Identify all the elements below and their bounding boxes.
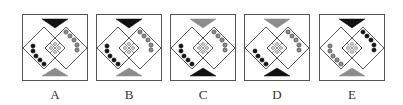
right-dot: [146, 38, 150, 42]
right-dot: [142, 34, 146, 38]
option-e-svg: [319, 14, 385, 81]
left-dot: [42, 62, 46, 66]
left-dot: [339, 62, 343, 66]
option-d-svg: [244, 14, 310, 81]
option-c-svg: [170, 14, 236, 81]
option-b-svg: [96, 14, 162, 81]
right-dot: [75, 48, 79, 52]
left-dot: [328, 44, 332, 48]
right-dot: [290, 34, 294, 38]
right-dot: [212, 30, 216, 34]
left-dot: [179, 49, 183, 53]
center-small-circle: [280, 47, 283, 50]
center-small-circle: [124, 47, 127, 50]
left-dot: [186, 58, 190, 62]
left-dot: [253, 49, 257, 53]
left-dot: [31, 44, 35, 48]
center-small-circle: [351, 43, 354, 46]
option-label-e: E: [319, 87, 385, 103]
left-dot: [105, 44, 109, 48]
option-b-figure[interactable]: [96, 14, 162, 81]
left-dot: [331, 54, 335, 58]
option-a-svg: [22, 14, 88, 81]
left-dot: [256, 54, 260, 58]
right-dot: [286, 30, 290, 34]
center-small-circle: [272, 47, 275, 50]
center-small-circle: [276, 43, 279, 46]
left-dot: [264, 62, 268, 66]
right-dot: [297, 48, 301, 52]
right-dot: [223, 43, 227, 47]
right-dot: [361, 30, 365, 34]
center-small-circle: [351, 51, 354, 54]
center-small-circle: [132, 47, 135, 50]
right-dot: [149, 48, 153, 52]
right-dot: [149, 43, 153, 47]
left-dot: [179, 44, 183, 48]
right-dot: [297, 43, 301, 47]
center-small-circle: [202, 51, 205, 54]
option-e-figure[interactable]: [319, 14, 385, 81]
left-dot: [328, 49, 332, 53]
left-dot: [38, 58, 42, 62]
center-small-circle: [202, 43, 205, 46]
left-dot: [112, 58, 116, 62]
center-small-circle: [128, 51, 131, 54]
option-d-figure[interactable]: [244, 14, 310, 81]
option-a-figure[interactable]: [22, 14, 88, 81]
option-label-b: B: [96, 87, 162, 103]
option-c-figure[interactable]: [170, 14, 236, 81]
center-small-circle: [347, 47, 350, 50]
left-dot: [335, 58, 339, 62]
center-small-circle: [58, 47, 61, 50]
center-small-circle: [355, 47, 358, 50]
right-dot: [68, 34, 72, 38]
center-small-circle: [54, 43, 57, 46]
right-dot: [365, 34, 369, 38]
center-small-circle: [50, 47, 53, 50]
center-small-circle: [54, 51, 57, 54]
right-dot: [216, 34, 220, 38]
option-label-d: D: [244, 87, 310, 103]
left-dot: [182, 54, 186, 58]
right-dot: [75, 43, 79, 47]
right-dot: [64, 30, 68, 34]
left-dot: [105, 49, 109, 53]
center-small-circle: [128, 43, 131, 46]
option-label-a: A: [22, 87, 88, 103]
right-dot: [294, 38, 298, 42]
center-small-circle: [206, 47, 209, 50]
right-dot: [369, 38, 373, 42]
left-dot: [108, 54, 112, 58]
right-dot: [72, 38, 76, 42]
right-dot: [372, 43, 376, 47]
center-small-circle: [276, 51, 279, 54]
center-small-circle: [198, 47, 201, 50]
left-dot: [31, 49, 35, 53]
right-dot: [220, 38, 224, 42]
left-dot: [116, 62, 120, 66]
right-dot: [138, 30, 142, 34]
left-dot: [34, 54, 38, 58]
right-dot: [372, 48, 376, 52]
option-label-c: C: [170, 87, 236, 103]
right-dot: [223, 48, 227, 52]
left-dot: [190, 62, 194, 66]
left-dot: [260, 58, 264, 62]
